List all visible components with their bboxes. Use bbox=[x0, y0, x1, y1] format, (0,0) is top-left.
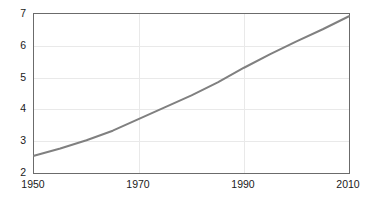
x-axis-tick-label: 1950 bbox=[13, 179, 53, 190]
data-series-svg bbox=[34, 14, 349, 173]
x-axis-tick-label: 1970 bbox=[118, 179, 158, 190]
data-series-line bbox=[34, 16, 349, 156]
y-axis-tick-label: 7 bbox=[20, 8, 26, 19]
line-chart: 7 6 5 4 3 2 1950 1970 1990 2010 bbox=[0, 0, 367, 202]
x-axis-tick-label: 1990 bbox=[223, 179, 263, 190]
y-axis-tick-label: 4 bbox=[20, 103, 26, 114]
x-axis-tick-label: 2010 bbox=[328, 179, 367, 190]
plot-area bbox=[33, 13, 350, 174]
y-axis-tick-label: 5 bbox=[20, 72, 26, 83]
y-axis-tick-label: 2 bbox=[20, 167, 26, 178]
y-axis-tick-label: 6 bbox=[20, 40, 26, 51]
y-axis-tick-label: 3 bbox=[20, 135, 26, 146]
